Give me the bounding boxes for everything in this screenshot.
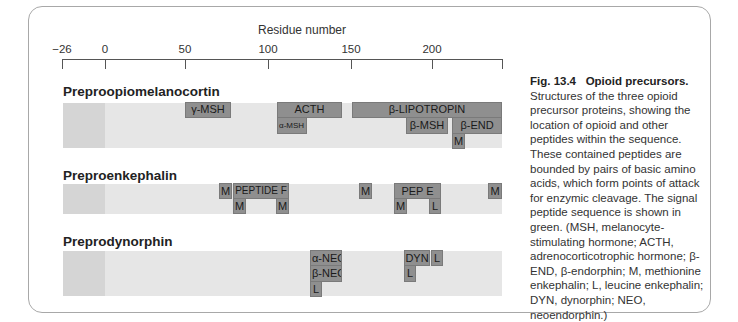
axis-line xyxy=(62,59,503,60)
peptide-met-enkephalin: M xyxy=(276,198,289,214)
peptide-leu-enkephalin: L xyxy=(431,250,443,266)
peptide-f: PEPTIDE F xyxy=(233,183,289,199)
peptide-met-enkephalin: M xyxy=(488,183,502,199)
caption-body: Structures of the three opioid precursor… xyxy=(530,90,703,321)
peptide-leu-enkephalin: L xyxy=(404,265,416,282)
tick-mark xyxy=(432,59,433,69)
signal-peptide xyxy=(63,251,105,296)
peptide-met-enkephalin: M xyxy=(233,198,246,214)
tick-mark xyxy=(62,59,63,69)
peptide-met-enkephalin: M xyxy=(394,198,407,214)
tick-label-150: 150 xyxy=(341,43,360,55)
peptide-met-enkephalin: M xyxy=(219,183,232,199)
tick-mark xyxy=(105,59,106,69)
peptide-beta-end: β-END xyxy=(452,117,502,134)
figure-label: Fig. 13.4 xyxy=(530,75,576,87)
peptide-beta-neo: β-NEO xyxy=(310,265,342,282)
peptide-met-enkephalin: M xyxy=(359,183,372,199)
peptide-alpha-neo: α-NEO xyxy=(310,250,342,266)
tick-mark xyxy=(502,59,503,69)
peptide-leu-enkephalin: L xyxy=(310,281,322,297)
figure-caption: Fig. 13.4 Opioid precursors. Structures … xyxy=(530,74,708,322)
peptide-leu-enkephalin: L xyxy=(429,198,441,214)
tick-mark xyxy=(185,59,186,69)
tick-mark xyxy=(351,59,352,69)
tick-label-100: 100 xyxy=(258,43,277,55)
tick-label-200: 200 xyxy=(422,43,441,55)
signal-peptide xyxy=(63,103,105,148)
row-title-dynorphin: Preprodynorphin xyxy=(63,234,173,249)
row-title-enkephalin: Preproenkephalin xyxy=(63,168,177,183)
tick-mark xyxy=(268,59,269,69)
peptide-gamma-msh: γ-MSH xyxy=(185,102,231,118)
peptide-alpha-msh: α-MSH xyxy=(277,117,307,134)
axis-title: Residue number xyxy=(232,23,372,37)
tick-label-0: 0 xyxy=(102,43,108,55)
tick-label-50: 50 xyxy=(179,43,192,55)
peptide-met-enkephalin: M xyxy=(452,133,465,149)
peptide-acth: ACTH xyxy=(277,102,342,118)
tick-label-neg26: −26 xyxy=(52,43,72,55)
peptide-pep-e: PEP E xyxy=(394,183,441,199)
figure-title: Opioid precursors. xyxy=(586,75,689,87)
peptide-beta-lipotropin: β-LIPOTROPIN xyxy=(352,102,502,118)
row-title-pomc: Preproopiomelanocortin xyxy=(63,84,220,99)
peptide-beta-msh: β-MSH xyxy=(406,117,448,134)
peptide-dyn: DYN xyxy=(404,250,430,266)
signal-peptide xyxy=(63,184,105,214)
